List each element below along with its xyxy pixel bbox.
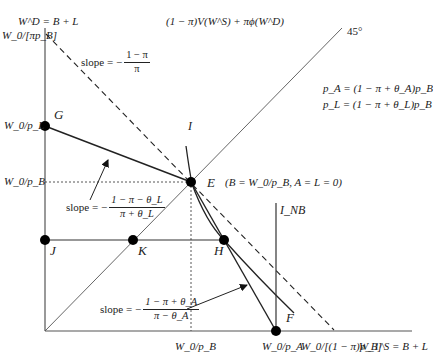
slope-label-GE: slope = − 1 − π − θ_L π + θ_L — [66, 195, 165, 219]
slope-EF-num: 1 − π + θ_A — [143, 297, 199, 310]
line-G-E — [45, 126, 191, 182]
point-J — [40, 235, 50, 245]
x-axis-label: W_1^S = B + L — [359, 341, 428, 352]
label-INB: I_NB — [280, 204, 305, 216]
equation-pA: p_A = (1 − π + θ_A)p_B — [323, 83, 433, 94]
y-tick-pL: W_0/p_L — [4, 120, 44, 131]
label-J: J — [50, 244, 56, 257]
slope-GE-num: 1 − π − θ_L — [109, 195, 164, 208]
slope-dashed-num: 1 − π — [124, 50, 150, 63]
equation-pL: p_L = (1 − π + θ_L)p_B — [323, 99, 432, 110]
point-E — [186, 177, 196, 187]
label-F: F — [286, 311, 294, 324]
x-tick-pA: W_0/p_A — [262, 341, 303, 352]
slope-dashed-prefix: slope = − — [81, 57, 122, 68]
label-E-note: (B = W_0/p_B, A = L = 0) — [225, 177, 342, 188]
slope-GE-den: π + θ_L — [120, 208, 154, 220]
objective-formula: (1 − π)V(W^S) + πϕ(W^D) — [166, 16, 284, 27]
label-K: K — [138, 244, 147, 257]
slope-EF-prefix: slope = − — [100, 304, 141, 315]
slope-EF-den: π − θ_A — [154, 310, 188, 322]
point-K — [128, 235, 138, 245]
slope-GE-prefix: slope = − — [66, 202, 107, 213]
slope-EF-fraction: 1 − π + θ_A π − θ_A — [143, 297, 199, 321]
y-tick-pB: W_0/p_B — [4, 176, 45, 187]
x-tick-pB: W_0/p_B — [175, 341, 216, 352]
slope-dashed-den: π — [134, 63, 139, 75]
point-F — [271, 326, 281, 336]
slope-dashed-fraction: 1 − π π — [124, 50, 150, 74]
label-45-degree: 45° — [347, 26, 362, 37]
slope-GE-arrow — [90, 160, 108, 200]
slope-label-dashed: slope = − 1 − π π — [81, 50, 150, 74]
y-axis-label: W^D = B + L — [18, 16, 78, 27]
label-H: H — [214, 244, 223, 257]
y-tick-top: W_0/[πp_B] — [2, 30, 57, 41]
slope-label-EF: slope = − 1 − π + θ_A π − θ_A — [100, 297, 199, 321]
label-I: I — [188, 120, 192, 132]
slope-GE-fraction: 1 − π − θ_L π + θ_L — [109, 195, 164, 219]
label-E: E — [207, 176, 215, 189]
label-G: G — [54, 108, 63, 121]
